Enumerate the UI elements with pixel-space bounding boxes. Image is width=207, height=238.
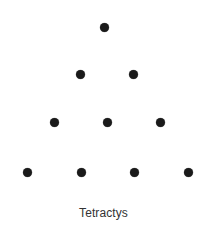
- tetractys-dot: [76, 70, 85, 79]
- tetractys-figure: Tetractys: [0, 0, 207, 238]
- tetractys-dot: [103, 118, 112, 127]
- tetractys-dot: [50, 118, 59, 127]
- tetractys-dot: [100, 23, 109, 32]
- tetractys-dot: [184, 168, 193, 177]
- tetractys-dot-layer: [0, 0, 207, 238]
- tetractys-dot: [156, 118, 165, 127]
- tetractys-dot: [77, 168, 86, 177]
- tetractys-dot: [130, 168, 139, 177]
- figure-caption: Tetractys: [0, 206, 207, 220]
- tetractys-dot: [129, 70, 138, 79]
- tetractys-dot: [23, 168, 32, 177]
